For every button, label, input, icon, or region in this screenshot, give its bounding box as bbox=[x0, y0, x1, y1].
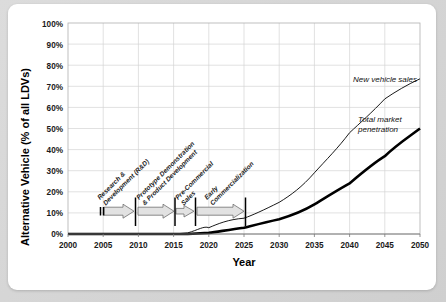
y-tick-label-20: 20% bbox=[47, 188, 64, 197]
y-tick-label-100: 100% bbox=[42, 20, 64, 29]
series-annotation-total-market-penetration-line1: Total market bbox=[358, 115, 403, 124]
x-tick-label-2050: 2050 bbox=[411, 241, 430, 250]
x-tick-label-2010: 2010 bbox=[129, 241, 148, 250]
series-annotation-total-market-penetration-line2: penetration bbox=[357, 125, 399, 134]
x-tick-label-2040: 2040 bbox=[340, 241, 359, 250]
x-tick-label-2000: 2000 bbox=[59, 241, 78, 250]
figure-root: Alternative Vehicle (% of all LDVs) 100%… bbox=[0, 0, 446, 302]
x-tick-label-2035: 2035 bbox=[305, 241, 324, 250]
y-tick-label-10: 10% bbox=[47, 209, 64, 218]
y-tick-label-60: 60% bbox=[47, 104, 64, 113]
chart-card: Alternative Vehicle (% of all LDVs) 100%… bbox=[8, 4, 436, 290]
y-tick-label-0: 0% bbox=[51, 230, 64, 239]
y-axis-title: Alternative Vehicle (% of all LDVs) bbox=[19, 68, 31, 246]
x-tick-label-2030: 2030 bbox=[270, 241, 289, 250]
x-tick-label-2045: 2045 bbox=[376, 241, 395, 250]
x-axis-title: Year bbox=[232, 256, 256, 268]
y-tick-label-70: 70% bbox=[47, 83, 64, 92]
y-tick-label-80: 80% bbox=[47, 62, 64, 71]
alternative-vehicle-adoption-chart: Alternative Vehicle (% of all LDVs) 100%… bbox=[8, 4, 436, 290]
y-tick-label-30: 30% bbox=[47, 167, 64, 176]
x-tick-label-2020: 2020 bbox=[200, 241, 219, 250]
series-annotation-new-vehicle-sales-line1: New vehicle sales bbox=[353, 75, 417, 84]
x-tick-label-2015: 2015 bbox=[164, 241, 183, 250]
y-tick-label-50: 50% bbox=[47, 125, 64, 134]
y-tick-label-40: 40% bbox=[47, 146, 64, 155]
x-tick-label-2025: 2025 bbox=[235, 241, 254, 250]
x-tick-label-2005: 2005 bbox=[94, 241, 113, 250]
y-tick-label-90: 90% bbox=[47, 41, 64, 50]
